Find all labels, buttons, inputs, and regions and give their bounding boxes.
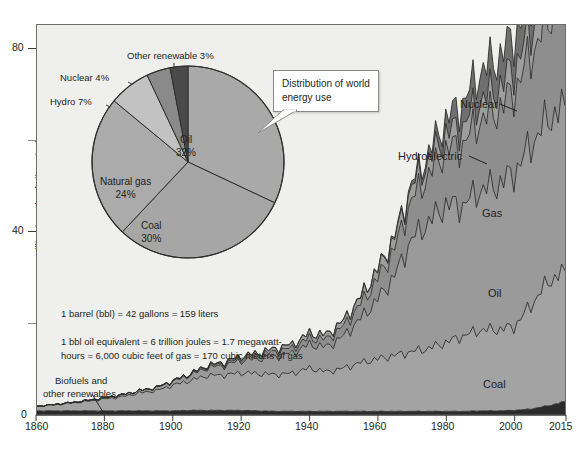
pie-slice-pct-oil: 32% xyxy=(176,147,196,158)
note-line-1: 1 barrel (bbl) = 42 gallons = 159 liters xyxy=(61,307,218,321)
pie-inner-label-gas: Natural gas 24% xyxy=(100,175,151,201)
figure-root: Billion barrels of oil equivalent 80 40 … xyxy=(0,0,587,452)
band-label-coal: Coal xyxy=(483,378,506,390)
x-tick-2015: 2015 xyxy=(549,420,572,432)
note-line-2: 1 bbl oil equivalent = 6 trillion joules… xyxy=(61,335,282,349)
pie-slice-name-oil: Oil xyxy=(180,134,192,145)
x-tick-1940: 1940 xyxy=(295,420,318,432)
callout-line-2: energy use xyxy=(282,92,331,103)
x-tick-1980: 1980 xyxy=(431,420,454,432)
x-tick-2000: 2000 xyxy=(499,420,522,432)
callout-box: Distribution of world energy use xyxy=(273,70,379,112)
note-line-3: hours = 6,000 cubic feet of gas = 170 cu… xyxy=(61,349,303,363)
pie-inner-label-oil: Oil 32% xyxy=(176,133,196,159)
pie-inner-label-coal: Coal 30% xyxy=(141,219,162,245)
pie-slice-pct-coal: 30% xyxy=(141,233,161,244)
pie-slice-name-gas: Natural gas xyxy=(100,176,151,187)
pie-slice-pct-gas: 24% xyxy=(116,189,136,200)
callout-line-1: Distribution of world xyxy=(282,78,370,89)
x-tick-1960: 1960 xyxy=(363,420,386,432)
pie-label-nuclear: Nuclear 4% xyxy=(60,72,109,84)
x-tick-1860: 1860 xyxy=(25,420,48,432)
biofuels-note-line-1: Biofuels and xyxy=(55,375,107,388)
x-tick-1880: 1880 xyxy=(91,420,114,432)
x-tick-1900: 1900 xyxy=(159,420,182,432)
x-tick-1920: 1920 xyxy=(227,420,250,432)
pie-label-other-renewable: Other renewable 3% xyxy=(127,50,214,62)
band-label-nuclear: Nuclear xyxy=(460,98,498,110)
band-label-hydroelectric: Hydroelectric xyxy=(398,150,462,162)
pie-chart xyxy=(88,62,288,262)
band-label-oil: Oil xyxy=(488,287,501,299)
pie-label-hydro: Hydro 7% xyxy=(50,96,92,108)
pie-slice-name-coal: Coal xyxy=(141,220,162,231)
biofuels-note-line-2: other renewables xyxy=(43,388,116,401)
band-label-gas: Gas xyxy=(482,207,502,219)
